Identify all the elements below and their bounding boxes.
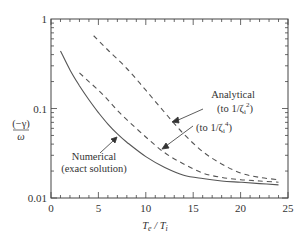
x-tick-label: 20 [235,202,247,214]
annotation-arrows [100,109,203,153]
y-axis-label-denominator: ω [17,131,24,142]
chart: 05101520250.010.11 (−γ) ω Te / Ti Analyt… [0,0,306,240]
x-tick-label: 10 [140,202,152,214]
tick-labels: 05101520250.010.11 [28,13,294,214]
y-axis-label-numerator: (−γ) [12,118,30,130]
x-tick-label: 0 [48,202,54,214]
y-tick-label: 0.01 [28,192,47,204]
annotation-to-zeta2: (to 1/ζi2) [217,101,253,116]
x-axis-label: Te / Ti [142,220,168,233]
arrowhead-icon [172,117,179,123]
x-tick-label: 25 [283,202,295,214]
annotation-exact-solution: (exact solution) [61,163,127,175]
annotation-numerical: Numerical [72,151,116,162]
x-tick-label: 15 [188,202,200,214]
y-tick-label: 1 [42,13,48,25]
arrowhead-icon [162,143,169,149]
y-tick-label: 0.1 [33,103,47,115]
x-tick-label: 5 [96,202,102,214]
annotation-analytical: Analytical [211,89,255,100]
annotation-to-zeta4: (to 1/ζi4) [196,120,232,135]
